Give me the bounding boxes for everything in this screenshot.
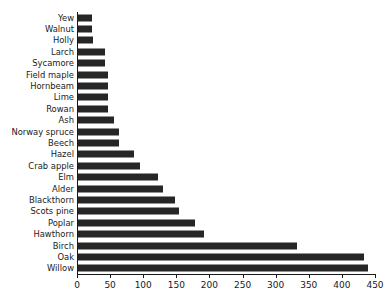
bar [78, 26, 92, 33]
bar [78, 242, 297, 249]
bar-row: Field maple [0, 69, 387, 80]
bar [78, 151, 134, 158]
bar-category-label: Yew [58, 13, 74, 22]
x-axis-tick-mark [110, 274, 111, 278]
bar [78, 139, 119, 146]
x-axis-tick-label: 100 [135, 280, 152, 291]
bar-category-label: Birch [53, 241, 74, 250]
bar [78, 208, 179, 215]
x-axis-tick-label: 50 [104, 280, 115, 291]
bar-rows: YewWalnutHollyLarchSycamoreField mapleHo… [0, 12, 387, 274]
bar-chart: YewWalnutHollyLarchSycamoreField mapleHo… [0, 0, 387, 304]
bar-row: Lime [0, 92, 387, 103]
bar-row: Birch [0, 240, 387, 251]
bar-category-label: Hornbeam [30, 82, 74, 91]
bar-category-label: Larch [51, 47, 74, 56]
bar-row: Scots pine [0, 206, 387, 217]
bar [78, 14, 92, 21]
bar-category-label: Hazel [51, 150, 74, 159]
bar-row: Willow [0, 263, 387, 274]
x-axis-tick-label: 300 [267, 280, 284, 291]
bar [78, 105, 108, 112]
x-axis-tick-mark [309, 274, 310, 278]
bar-category-label: Crab apple [28, 161, 74, 170]
bar-row: Blackthorn [0, 194, 387, 205]
bar-category-label: Elm [58, 173, 74, 182]
x-axis-tick-mark [243, 274, 244, 278]
bar-row: Larch [0, 46, 387, 57]
bar-row: Holly [0, 35, 387, 46]
bar-row: Hornbeam [0, 80, 387, 91]
bar-category-label: Poplar [48, 218, 74, 227]
bar-category-label: Field maple [26, 70, 74, 79]
bar-category-label: Hawthorn [33, 230, 74, 239]
bar-category-label: Oak [57, 252, 74, 261]
bar-row: Poplar [0, 217, 387, 228]
bar-category-label: Scots pine [31, 207, 74, 216]
bar-row: Alder [0, 183, 387, 194]
bar-row: Rowan [0, 103, 387, 114]
bar-category-label: Rowan [46, 104, 74, 113]
bar [78, 196, 175, 203]
bar [78, 128, 119, 135]
bar-row: Crab apple [0, 160, 387, 171]
bar [78, 71, 108, 78]
bar [78, 60, 105, 67]
bar [78, 231, 204, 238]
x-axis-tick-label: 0 [74, 280, 80, 291]
bar-row: Sycamore [0, 58, 387, 69]
x-axis-tick-label: 350 [300, 280, 317, 291]
bar [78, 265, 368, 272]
bar [78, 37, 93, 44]
bar-category-label: Alder [52, 184, 74, 193]
x-axis-tick-label: 450 [366, 280, 383, 291]
bar-category-label: Sycamore [32, 59, 74, 68]
bar-row: Hazel [0, 149, 387, 160]
bar [78, 185, 163, 192]
bar [78, 162, 140, 169]
bar-category-label: Beech [48, 138, 74, 147]
bar [78, 174, 158, 181]
bar [78, 253, 364, 260]
x-axis-tick-mark [342, 274, 343, 278]
bar-row: Beech [0, 137, 387, 148]
x-axis-tick-mark [276, 274, 277, 278]
x-axis-tick-label: 200 [201, 280, 218, 291]
bar-row: Hawthorn [0, 228, 387, 239]
x-axis-tick-label: 250 [234, 280, 251, 291]
x-axis-tick-mark [77, 274, 78, 278]
bar-row: Oak [0, 251, 387, 262]
bar-row: Ash [0, 115, 387, 126]
bar [78, 94, 108, 101]
bar-row: Yew [0, 12, 387, 23]
x-axis-tick-label: 400 [333, 280, 350, 291]
bar [78, 219, 195, 226]
x-axis-tick-mark [176, 274, 177, 278]
bar-category-label: Norway spruce [11, 127, 74, 136]
bar [78, 48, 105, 55]
x-axis-ticks: 050100150200250300350400450 [0, 274, 387, 304]
bar-category-label: Holly [53, 36, 74, 45]
bar-category-label: Willow [47, 264, 74, 273]
x-axis-tick-mark [375, 274, 376, 278]
bar [78, 117, 114, 124]
bar-row: Elm [0, 171, 387, 182]
bar-category-label: Lime [54, 93, 74, 102]
bar [78, 83, 108, 90]
x-axis-tick-label: 150 [168, 280, 185, 291]
x-axis-tick-mark [143, 274, 144, 278]
bar-row: Norway spruce [0, 126, 387, 137]
bar-row: Walnut [0, 23, 387, 34]
bar-category-label: Blackthorn [29, 195, 74, 204]
bar-category-label: Ash [59, 116, 74, 125]
bar-category-label: Walnut [45, 25, 74, 34]
x-axis-tick-mark [209, 274, 210, 278]
